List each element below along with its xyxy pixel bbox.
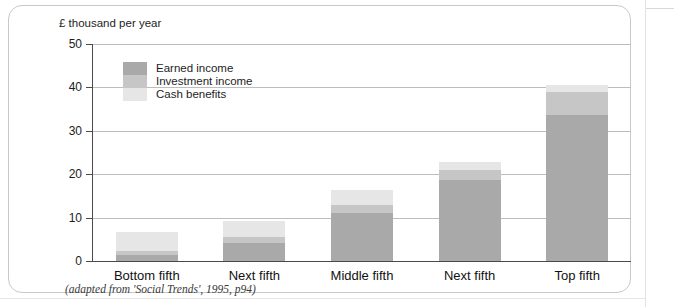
page-margin-rule — [645, 0, 646, 307]
y-axis-tick-mark — [86, 131, 93, 132]
gridline — [93, 44, 631, 45]
bar-segment[interactable] — [331, 190, 393, 204]
y-axis-spine — [92, 44, 93, 261]
y-axis-tick-label: 40 — [69, 80, 82, 94]
y-axis-tick-label: 50 — [69, 37, 82, 51]
y-axis-tick-mark — [86, 261, 93, 262]
bar-segment[interactable] — [331, 213, 393, 261]
bar-stack[interactable] — [546, 85, 608, 261]
x-axis-category-label: Top fifth — [523, 268, 631, 283]
chart-legend: Earned incomeInvestment incomeCash benef… — [123, 62, 253, 101]
bar-stack[interactable] — [223, 221, 285, 261]
y-axis-tick-label: 0 — [75, 254, 82, 268]
page-top-rule — [646, 8, 674, 9]
y-axis-tick-mark — [86, 87, 93, 88]
source-caption: (adapted from 'Social Trends', 1995, p94… — [65, 283, 256, 295]
legend-swatch — [123, 75, 147, 88]
x-axis-category-label: Bottom fifth — [93, 268, 201, 283]
bar-segment[interactable] — [223, 243, 285, 261]
bar-segment[interactable] — [439, 162, 501, 170]
x-axis-category-label: Next fifth — [201, 268, 309, 283]
bar-segment[interactable] — [331, 205, 393, 214]
legend-text-column: Earned incomeInvestment incomeCash benef… — [156, 62, 253, 101]
y-axis-tick-mark — [86, 44, 93, 45]
x-axis-category-label: Next fifth — [416, 268, 524, 283]
y-axis-tick-label: 30 — [69, 124, 82, 138]
x-axis-category-label: Middle fifth — [308, 268, 416, 283]
legend-swatch — [123, 62, 147, 75]
legend-label: Cash benefits — [156, 88, 253, 101]
legend-swatch-column — [123, 62, 147, 101]
bar-stack[interactable] — [439, 162, 501, 261]
y-axis-tick-label: 20 — [69, 167, 82, 181]
bar-segment[interactable] — [546, 92, 608, 115]
bar-segment[interactable] — [223, 221, 285, 237]
bar-segment[interactable] — [439, 180, 501, 261]
bar-stack[interactable] — [331, 190, 393, 261]
legend-swatch — [123, 88, 147, 101]
legend-label: Earned income — [156, 62, 253, 75]
bar-segment[interactable] — [116, 232, 178, 252]
y-axis-tick-mark — [86, 174, 93, 175]
bar-stack[interactable] — [116, 232, 178, 261]
figure-frame: £ thousand per year 01020304050 Bottom f… — [8, 5, 631, 293]
legend-label: Investment income — [156, 75, 253, 88]
y-axis-unit-label: £ thousand per year — [59, 17, 161, 29]
axis-baseline — [93, 261, 631, 262]
page-bottom-rule — [0, 298, 645, 299]
y-axis-tick-label: 10 — [69, 211, 82, 225]
y-axis-tick-mark — [86, 218, 93, 219]
bar-segment[interactable] — [116, 255, 178, 262]
bar-segment[interactable] — [439, 170, 501, 180]
bar-segment[interactable] — [546, 115, 608, 261]
